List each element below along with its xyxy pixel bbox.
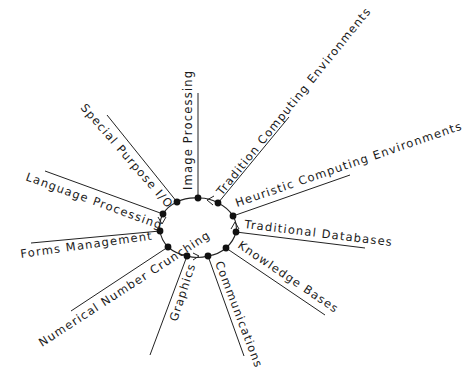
node-heuristic-computing [230, 213, 237, 220]
node-image-processing [195, 195, 202, 202]
label-forms-management: Forms Management [19, 229, 153, 261]
node-tradition-computing [215, 200, 222, 207]
spoke-line-special-purpose-io [107, 115, 177, 202]
node-knowledge-bases [223, 245, 230, 252]
node-communications [205, 253, 212, 260]
arrowhead-icon [231, 222, 239, 229]
label-knowledge-bases: Knowledge Bases [235, 238, 341, 316]
node-traditional-databases [233, 229, 240, 236]
label-image-processing: Image Processing [181, 70, 195, 190]
spoke-labels: Image ProcessingTradition Computing Envi… [19, 4, 464, 370]
label-traditional-databases: Traditional Databases [243, 217, 394, 249]
arrowhead-icon [193, 253, 199, 260]
label-communications: Communications [212, 259, 266, 370]
radial-diagram: Image ProcessingTradition Computing Envi… [0, 0, 474, 378]
spoke-line-numerical-number-crunching [71, 247, 168, 311]
node-language-processing [160, 211, 167, 218]
label-graphics: Graphics [167, 261, 199, 323]
